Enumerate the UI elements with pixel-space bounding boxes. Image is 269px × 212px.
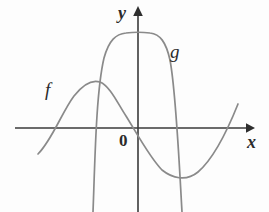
graph-figure: f g y x 0 bbox=[0, 0, 269, 212]
x-axis-label: x bbox=[247, 133, 256, 151]
curve-label-f: f bbox=[45, 80, 50, 99]
graph-canvas bbox=[0, 0, 269, 212]
arrow-up-icon bbox=[133, 6, 143, 16]
origin-label: 0 bbox=[119, 132, 128, 149]
curve-label-g: g bbox=[170, 42, 180, 61]
y-axis-label: y bbox=[118, 4, 126, 22]
